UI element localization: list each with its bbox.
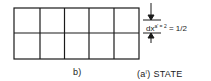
dimension-rhs: = 1/2 (169, 24, 187, 33)
grid-cells (14, 8, 139, 59)
dimension-eq: = 2 (160, 23, 167, 29)
panel-label: b) (73, 67, 82, 77)
dimension-sup: a' (154, 23, 158, 29)
state-label: (aI) STATE (137, 67, 183, 79)
state-label-prefix: (a (137, 69, 146, 79)
dimension-label: dxa' = 2 = 1/2 (146, 22, 187, 33)
state-label-suffix: ) STATE (147, 69, 182, 79)
